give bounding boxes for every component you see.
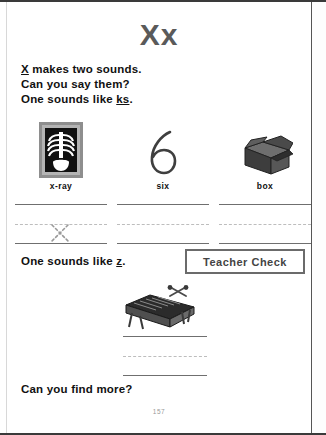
xylophone-icon bbox=[120, 285, 200, 333]
line-midline-dashed bbox=[219, 224, 311, 225]
six-picture bbox=[143, 120, 183, 178]
page-right-margin bbox=[312, 2, 326, 433]
second-sound-text: One sounds like z. bbox=[21, 255, 126, 267]
intro-line-2: Can you say them? bbox=[21, 77, 261, 92]
teacher-check-box[interactable]: Teacher Check bbox=[185, 249, 305, 274]
trace-letter-x-icon bbox=[49, 222, 71, 244]
page-content: Xx X makes two sounds. Can you say them?… bbox=[7, 2, 311, 433]
intro-line-1: X makes two sounds. bbox=[21, 62, 261, 77]
caption-six: six bbox=[156, 181, 169, 191]
page-title: Xx bbox=[7, 20, 311, 50]
writing-lines-xray[interactable] bbox=[15, 198, 107, 250]
teacher-check-label: Teacher Check bbox=[203, 256, 287, 268]
letter-x-underlined: X bbox=[21, 63, 29, 75]
page-number: 157 bbox=[7, 408, 311, 415]
worksheet-page: Xx X makes two sounds. Can you say them?… bbox=[0, 0, 326, 435]
intro-line-3: One sounds like ks. bbox=[21, 92, 261, 107]
line-baseline bbox=[123, 375, 207, 376]
box-picture bbox=[237, 120, 293, 178]
caption-xray: x-ray bbox=[50, 181, 72, 191]
intro-line-3-post: . bbox=[129, 93, 132, 105]
find-more-question: Can you find more? bbox=[21, 383, 133, 395]
xray-picture bbox=[39, 120, 83, 178]
writing-lines-box[interactable] bbox=[219, 198, 311, 250]
line-top bbox=[219, 204, 311, 205]
line-midline-dashed bbox=[117, 224, 209, 225]
line-top bbox=[15, 204, 107, 205]
page-right-rule bbox=[311, 2, 312, 433]
intro-line-1-rest: makes two sounds. bbox=[29, 63, 142, 75]
handwriting-lines-row bbox=[15, 198, 311, 250]
line-top bbox=[117, 204, 209, 205]
picture-column-six: six bbox=[117, 120, 209, 191]
intro-line-3-pre: One sounds like bbox=[21, 93, 116, 105]
writing-lines-xylophone[interactable] bbox=[123, 336, 207, 378]
picture-column-box: box bbox=[219, 120, 311, 191]
picture-column-xray: x-ray bbox=[15, 120, 107, 191]
line-midline-dashed bbox=[123, 356, 207, 357]
writing-lines-six[interactable] bbox=[117, 198, 209, 250]
second-sound-pre: One sounds like bbox=[21, 255, 116, 267]
sound-ks-underlined: ks bbox=[116, 93, 129, 105]
line-baseline bbox=[219, 243, 311, 244]
xray-film-icon bbox=[39, 122, 83, 178]
picture-columns: x-ray six bbox=[15, 120, 311, 191]
line-top bbox=[123, 336, 207, 337]
intro-text: X makes two sounds. Can you say them? On… bbox=[21, 62, 261, 107]
xylophone-picture bbox=[115, 284, 205, 334]
numeral-six-icon bbox=[143, 126, 183, 178]
line-baseline bbox=[117, 243, 209, 244]
second-sound-post: . bbox=[122, 255, 125, 267]
open-box-icon bbox=[237, 128, 293, 178]
caption-box: box bbox=[257, 181, 273, 191]
